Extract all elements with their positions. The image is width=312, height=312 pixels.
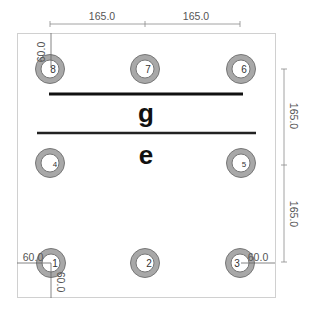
dim-top-right: 165.0 [183, 10, 209, 22]
top-dimension [50, 21, 240, 27]
dim-right-upper: 165.0 [288, 103, 300, 129]
pin-2: 2 [131, 249, 160, 278]
pin-8: 6 [227, 55, 256, 84]
dim-pin6-top: 60.0 [35, 42, 47, 63]
pin-7: 7 [131, 55, 160, 84]
svg-text:5: 5 [242, 160, 247, 169]
dim-pin3-right: 60.0 [248, 251, 269, 263]
dim-pin1-bottom: 60.0 [55, 272, 67, 293]
right-dimension [281, 69, 287, 262]
svg-text:3: 3 [234, 258, 240, 269]
svg-text:1: 1 [52, 258, 58, 269]
region-label-g: g [138, 98, 154, 128]
pin-5: 5 [227, 149, 256, 178]
pin-layout-diagram: g e 8 7 6 4 5 1 2 3 [0, 0, 312, 312]
pin-4: 4 [36, 149, 65, 178]
region-label-e: e [139, 140, 153, 170]
dim-right-lower: 165.0 [288, 201, 300, 227]
dim-pin1-left: 60.0 [23, 251, 44, 263]
svg-text:2: 2 [146, 258, 152, 269]
svg-text:7: 7 [145, 64, 151, 75]
svg-text:6: 6 [241, 64, 247, 75]
svg-text:4: 4 [53, 160, 58, 169]
dim-top-left: 165.0 [89, 10, 115, 22]
